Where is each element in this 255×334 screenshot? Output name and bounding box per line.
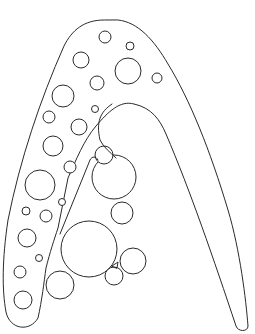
bubble-circle: [152, 73, 162, 83]
bubble-circle: [14, 266, 26, 278]
bubble-circle: [22, 207, 30, 215]
bubble-circle: [52, 85, 74, 107]
bubble-circle: [14, 291, 32, 309]
bubble-circle: [99, 31, 111, 43]
bubble-circle: [59, 199, 66, 206]
cluster-bubble: [105, 267, 123, 285]
bubble-circle: [73, 52, 89, 68]
cluster-bubble: [120, 248, 146, 274]
bubble-circle: [36, 255, 43, 262]
bubble-circle: [25, 170, 55, 200]
bubble-circle: [18, 229, 36, 247]
bubble-circle: [115, 58, 141, 84]
bubble-circle: [64, 161, 76, 173]
letter-a-drawing: [0, 0, 255, 334]
bubble-circle: [92, 106, 99, 113]
cluster-bubble: [46, 271, 74, 299]
bubble-circle: [40, 210, 52, 222]
coloring-page: Letter A coloring page with bubbles: [0, 0, 255, 334]
bubble-circle: [43, 136, 63, 156]
bubble-circle: [126, 42, 134, 50]
bubble-circle: [71, 119, 87, 135]
bubble-cluster: [46, 146, 146, 299]
bubble-circle: [90, 76, 104, 90]
bubble-circle: [43, 111, 55, 123]
cluster-bubble: [111, 202, 133, 224]
cluster-bubble: [95, 146, 113, 164]
